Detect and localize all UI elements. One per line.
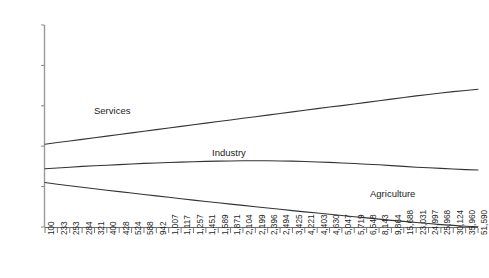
x-axis-label: 51,590 bbox=[481, 210, 489, 235]
x-axis-label: 321 bbox=[98, 221, 106, 235]
x-axis-label: 15,688 bbox=[407, 210, 415, 235]
x-axis-label: 1,589 bbox=[222, 215, 230, 236]
x-axis-label: 1,257 bbox=[197, 215, 205, 236]
x-axis-label: 3,425 bbox=[296, 215, 304, 236]
x-axis-label: 253 bbox=[73, 221, 81, 235]
series-label-agriculture: Agriculture bbox=[370, 188, 415, 199]
x-axis-label: 35,960 bbox=[469, 210, 477, 235]
x-axis-label: 2,104 bbox=[246, 215, 254, 236]
x-axis-label: 30,124 bbox=[457, 210, 465, 235]
x-axis-label: 524 bbox=[135, 221, 143, 235]
x-axis-label: 8,143 bbox=[382, 215, 390, 236]
series-label-industry: Industry bbox=[212, 147, 246, 158]
x-axis-label: 24,997 bbox=[432, 210, 440, 235]
x-axis-label: 1,007 bbox=[172, 215, 180, 236]
x-axis-label: 1,117 bbox=[184, 215, 192, 235]
x-axis-label: 1,871 bbox=[234, 215, 242, 236]
x-axis-label: 4,403 bbox=[321, 215, 329, 236]
x-axis-label: 428 bbox=[123, 221, 131, 235]
x-axis-label: 5,047 bbox=[345, 215, 353, 236]
x-axis-label: 2,494 bbox=[283, 215, 291, 236]
x-axis-label: 23,031 bbox=[420, 210, 428, 235]
x-axis-label: 25,968 bbox=[444, 210, 452, 235]
x-axis-label: 284 bbox=[86, 221, 94, 235]
x-axis-label: 5,719 bbox=[358, 215, 366, 236]
x-axis-label: 588 bbox=[147, 221, 155, 235]
x-axis-label: 6,548 bbox=[370, 215, 378, 236]
x-axis-label: 942 bbox=[160, 221, 168, 235]
x-axis-label: 4,221 bbox=[308, 215, 316, 236]
x-axis-label: 2,396 bbox=[271, 215, 279, 236]
x-axis-label: 233 bbox=[61, 221, 69, 235]
x-axis-label: 100 bbox=[48, 221, 56, 235]
x-axis-label: 2,199 bbox=[259, 215, 267, 236]
x-axis-label: 4,630 bbox=[333, 215, 341, 236]
x-axis-label: 1,451 bbox=[209, 215, 217, 236]
x-axis-label: 9,864 bbox=[395, 215, 403, 236]
x-axis-label: 400 bbox=[110, 221, 118, 235]
series-label-services: Services bbox=[94, 105, 130, 116]
